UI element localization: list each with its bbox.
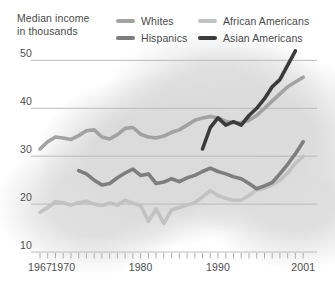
x-axis-label: 1967 bbox=[28, 261, 52, 273]
series-line-whites bbox=[40, 77, 303, 149]
y-axis-label: 30 bbox=[20, 143, 32, 155]
x-axis-label: 1990 bbox=[206, 261, 230, 273]
y-axis-label: 10 bbox=[20, 239, 32, 251]
line-chart: 102030405019671970198019902001 bbox=[0, 0, 335, 289]
y-axis-label: 50 bbox=[20, 47, 32, 59]
series-line-hispanics bbox=[79, 142, 304, 189]
y-axis-label: 40 bbox=[20, 95, 32, 107]
x-axis-label: 1980 bbox=[129, 261, 153, 273]
y-axis-label: 20 bbox=[20, 191, 32, 203]
chart-canvas: Median income in thousands Whites Africa… bbox=[0, 0, 335, 289]
x-axis-label: 2001 bbox=[291, 261, 315, 273]
series-line-african-americans bbox=[40, 156, 303, 223]
series-line-asian-americans bbox=[203, 51, 296, 149]
x-axis-label: 1970 bbox=[51, 261, 75, 273]
